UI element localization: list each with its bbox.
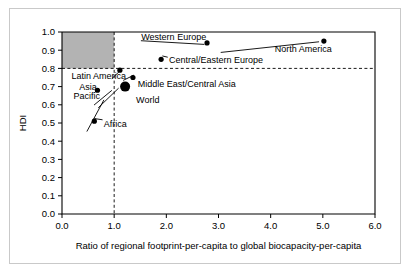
y-axis-title: HDI xyxy=(17,115,28,131)
x-axis-title: Ratio of regional footprint-per-capita t… xyxy=(76,240,362,251)
point-label-middle-east-central-asia: Middle East/Central Asia xyxy=(138,79,236,89)
y-tick-label: 0.0 xyxy=(42,208,55,219)
point-label-western-europe: Western Europe xyxy=(141,32,206,42)
point-label-world: World xyxy=(136,95,159,105)
point-label-africa: Africa xyxy=(104,119,127,129)
y-tick-label: 0.2 xyxy=(42,172,55,183)
x-tick-label: 3.0 xyxy=(212,220,225,231)
shaded-quadrant-region xyxy=(62,32,114,68)
data-point-world xyxy=(120,82,130,92)
data-point-africa xyxy=(92,119,97,124)
x-tick-label: 5.0 xyxy=(316,220,329,231)
figure-container: 0.00.10.20.30.40.50.60.70.80.91.00.01.02… xyxy=(0,0,410,273)
x-tick-label: 6.0 xyxy=(368,220,381,231)
y-tick-label: 0.9 xyxy=(42,45,55,56)
x-tick-label: 0.0 xyxy=(55,220,68,231)
y-tick-label: 0.3 xyxy=(42,154,55,165)
y-tick-label: 0.7 xyxy=(42,81,55,92)
y-tick-label: 0.8 xyxy=(42,63,55,74)
x-tick-label: 1.0 xyxy=(108,220,121,231)
y-tick-label: 0.6 xyxy=(42,99,55,110)
x-tick-label: 4.0 xyxy=(264,220,277,231)
point-label-north-america: North America xyxy=(275,44,332,54)
y-tick-label: 0.1 xyxy=(42,190,55,201)
label-leader-line xyxy=(163,56,168,57)
point-label-latin-america: Latin America xyxy=(71,71,126,81)
scatter-chart: 0.00.10.20.30.40.50.60.70.80.91.00.01.02… xyxy=(0,0,410,273)
y-tick-label: 0.5 xyxy=(42,117,55,128)
data-point-central-eastern-europe xyxy=(159,57,164,62)
data-point-middle-east-central-asia xyxy=(130,75,135,80)
y-tick-label: 0.4 xyxy=(42,136,55,147)
point-label-pacific: Pacific xyxy=(73,91,100,101)
point-label-central-eastern-europe: Central/Eastern Europe xyxy=(169,55,263,65)
data-point-north-america xyxy=(321,39,326,44)
x-tick-label: 2.0 xyxy=(160,220,173,231)
y-tick-label: 1.0 xyxy=(42,26,55,37)
label-leader-line xyxy=(99,88,119,107)
